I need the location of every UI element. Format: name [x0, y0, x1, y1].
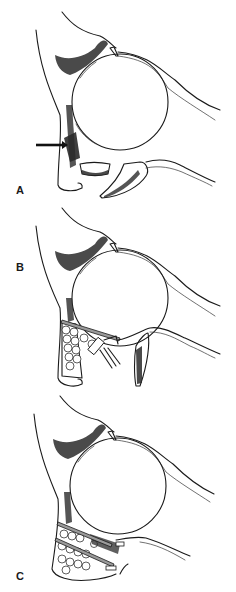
panel-label-b: B — [16, 261, 24, 273]
arrow-icon — [36, 141, 68, 149]
orbit-diagram-b — [0, 198, 236, 394]
orbit-diagram-a — [0, 0, 236, 198]
panel-c: C — [0, 394, 236, 592]
panel-b: B — [0, 198, 236, 394]
orbit-diagram-c — [0, 394, 236, 592]
panel-a: A — [0, 0, 236, 198]
panel-label-a: A — [16, 184, 24, 196]
panel-label-c: C — [16, 570, 24, 582]
